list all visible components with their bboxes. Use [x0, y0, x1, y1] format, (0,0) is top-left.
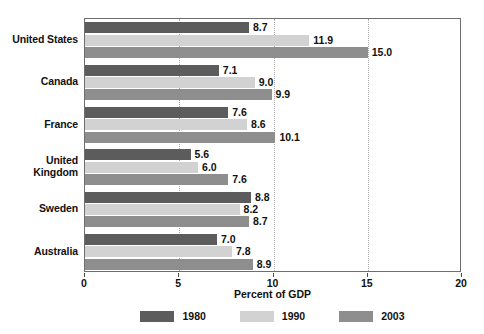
plot-inner: 8.711.915.07.19.09.97.68.610.15.66.07.68…: [85, 19, 460, 271]
legend-swatch-2003: [339, 311, 373, 322]
bar-australia-1990: [85, 246, 232, 257]
bar-group: 8.711.915.0: [85, 19, 460, 61]
bar-value-label: 7.0: [221, 234, 236, 245]
bar-value-label: 8.8: [255, 192, 270, 203]
bar-value-label: 10.1: [279, 132, 299, 143]
bar-value-label: 7.8: [236, 246, 251, 257]
category-label-australia: Australia: [0, 245, 78, 258]
bar-value-label: 15.0: [372, 47, 392, 58]
bar-chart: United StatesCanadaFranceUnitedKingdomSw…: [0, 0, 484, 334]
category-label-united-kingdom: UnitedKingdom: [0, 154, 78, 179]
bar-canada-2003: [85, 89, 272, 100]
legend-swatch-1990: [240, 311, 274, 322]
bar-value-label: 8.6: [251, 119, 266, 130]
bar-france-1980: [85, 107, 228, 118]
bar-value-label: 9.9: [276, 89, 291, 100]
bar-france-1990: [85, 119, 247, 130]
bar-value-label: 8.9: [257, 259, 272, 270]
bar-united-kingdom-2003: [85, 174, 228, 185]
bar-value-label: 7.6: [232, 174, 247, 185]
bar-value-label: 8.7: [253, 216, 268, 227]
bar-value-label: 7.6: [232, 107, 247, 118]
bar-group: 7.68.610.1: [85, 104, 460, 146]
bar-united-states-1990: [85, 35, 309, 46]
category-label-france: France: [0, 118, 78, 131]
legend-item-1990[interactable]: 1990: [240, 310, 305, 322]
legend-label-1990: 1990: [282, 310, 305, 322]
category-label-sweden: Sweden: [0, 202, 78, 215]
bar-group: 7.07.88.9: [85, 231, 460, 273]
bar-sweden-1980: [85, 192, 251, 203]
bar-australia-1980: [85, 234, 217, 245]
bar-canada-1980: [85, 65, 219, 76]
bar-value-label: 8.2: [244, 204, 259, 215]
bar-france-2003: [85, 132, 275, 143]
bar-value-label: 8.7: [253, 22, 268, 33]
category-label-canada: Canada: [0, 75, 78, 88]
bar-canada-1990: [85, 77, 255, 88]
chart-legend: 198019902003: [84, 307, 461, 325]
bar-united-kingdom-1980: [85, 149, 191, 160]
bar-value-label: 6.0: [202, 162, 217, 173]
bar-value-label: 11.9: [313, 35, 333, 46]
bar-group: 8.88.28.7: [85, 188, 460, 230]
x-axis: 05101520: [84, 273, 461, 289]
legend-item-2003[interactable]: 2003: [339, 310, 404, 322]
legend-swatch-1980: [140, 311, 174, 322]
bar-sweden-1990: [85, 204, 240, 215]
bar-value-label: 9.0: [259, 77, 274, 88]
category-axis: United StatesCanadaFranceUnitedKingdomSw…: [0, 18, 78, 272]
plot-area: 8.711.915.07.19.09.97.68.610.15.66.07.68…: [84, 18, 461, 272]
bar-value-label: 5.6: [195, 149, 210, 160]
bar-australia-2003: [85, 259, 253, 270]
category-label-united-states: United States: [0, 33, 78, 46]
bar-united-states-2003: [85, 47, 368, 58]
bar-united-kingdom-1990: [85, 162, 198, 173]
legend-label-1980: 1980: [182, 310, 205, 322]
x-axis-title: Percent of GDP: [84, 288, 461, 300]
bar-sweden-2003: [85, 216, 249, 227]
bar-group: 7.19.09.9: [85, 61, 460, 103]
legend-item-1980[interactable]: 1980: [140, 310, 205, 322]
bar-united-states-1980: [85, 22, 249, 33]
bar-group: 5.66.07.6: [85, 146, 460, 188]
bar-value-label: 7.1: [223, 65, 238, 76]
legend-label-2003: 2003: [381, 310, 404, 322]
